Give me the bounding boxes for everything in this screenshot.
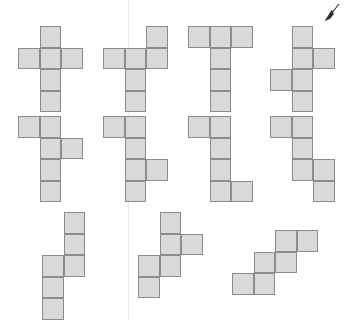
net-cell: [125, 116, 147, 138]
net-cell: [292, 116, 314, 138]
plus-cross-net: [18, 26, 83, 112]
net-cell: [181, 234, 203, 256]
net-cell: [210, 181, 232, 203]
net-cell: [313, 159, 335, 181]
net-cell: [160, 234, 182, 256]
net-cell: [42, 255, 64, 277]
net-cell: [138, 277, 160, 299]
net-cell: [40, 69, 62, 91]
net-cell: [270, 116, 292, 138]
net-cell: [146, 159, 168, 181]
net-cell: [125, 181, 147, 203]
net-cell: [64, 234, 86, 256]
staircase-net: [232, 230, 318, 295]
net-cell: [40, 181, 62, 203]
net-cell: [292, 69, 314, 91]
net-cell: [292, 159, 314, 181]
net-cell: [125, 69, 147, 91]
net-cell: [160, 255, 182, 277]
net-cell: [40, 26, 62, 48]
net-cell: [125, 91, 147, 113]
net-cell: [146, 26, 168, 48]
net-cell: [40, 138, 62, 160]
net-cell: [313, 181, 335, 203]
net-cell: [292, 26, 314, 48]
net-cell: [160, 212, 182, 234]
net-cell: [138, 255, 160, 277]
net-cell: [292, 48, 314, 70]
net-cell: [231, 26, 253, 48]
net-cell: [313, 48, 335, 70]
net-cell: [210, 138, 232, 160]
net-cell: [292, 138, 314, 160]
net-cell: [125, 48, 147, 70]
net-cell: [270, 69, 292, 91]
net-cell: [61, 48, 83, 70]
diagonal-branch-net: [138, 212, 203, 298]
net-cell: [42, 277, 64, 299]
net-cell: [275, 230, 297, 252]
net-cell: [254, 252, 276, 274]
net-cell: [188, 26, 210, 48]
net-cell: [125, 159, 147, 181]
net-cell: [61, 138, 83, 160]
net-cell: [188, 116, 210, 138]
net-cell: [125, 138, 147, 160]
net-cell: [40, 48, 62, 70]
net-cell: [232, 273, 254, 295]
zed-net: [188, 116, 253, 202]
tee-net: [188, 26, 253, 112]
net-cell: [18, 116, 40, 138]
zigzag-cross-net: [270, 26, 335, 112]
net-cell: [210, 48, 232, 70]
net-cell: [254, 273, 276, 295]
net-cell: [292, 91, 314, 113]
net-cell: [146, 48, 168, 70]
net-cell: [275, 252, 297, 274]
net-cell: [210, 116, 232, 138]
stepped-net-top: [18, 116, 83, 202]
net-cell: [103, 116, 125, 138]
stepped-net-middle: [103, 116, 168, 202]
net-cell: [297, 230, 319, 252]
net-cell: [18, 48, 40, 70]
net-cell: [210, 159, 232, 181]
net-cell: [42, 298, 64, 320]
net-cell: [64, 212, 86, 234]
net-cell: [210, 69, 232, 91]
mouse-cursor: [320, 2, 342, 26]
net-cell: [210, 26, 232, 48]
net-cell: [210, 91, 232, 113]
offset-cross-net: [103, 26, 168, 112]
net-cell: [40, 91, 62, 113]
net-cell: [40, 159, 62, 181]
net-cell: [40, 116, 62, 138]
double-step-net: [270, 116, 335, 202]
net-cell: [64, 255, 86, 277]
long-offset-net: [42, 212, 85, 320]
net-cell: [231, 181, 253, 203]
net-cell: [103, 48, 125, 70]
